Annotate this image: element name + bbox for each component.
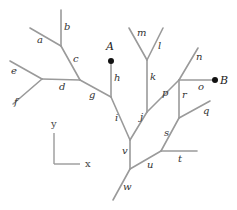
edge-label-o: o [198,81,204,92]
edge-label-p: p [162,87,169,98]
edge-label-r: r [182,89,188,100]
y-axis-label: y [50,118,57,129]
edge-label-w: w [123,181,132,192]
edge-g [80,80,111,97]
edge-label-t: t [178,153,183,164]
edge-a [30,28,61,46]
point-B-dot [212,77,218,83]
edge-label-d: d [59,81,65,92]
edge-label-k: k [150,71,156,82]
edge-label-u: u [147,159,153,170]
edge-label-n: n [196,51,202,62]
edge-label-v: v [122,145,128,156]
edge-u [130,151,161,169]
edge-label-j: j [138,111,143,122]
edge-label-i: i [115,112,118,123]
edge-label-g: g [89,89,95,100]
edge-label-s: s [164,127,169,138]
edge-label-q: q [203,105,209,116]
edge-label-l: l [158,40,161,51]
point-label-B: B [219,74,228,87]
coordinate-axes: y x [50,118,91,169]
edge-label-b: b [64,21,70,32]
edge-label-a: a [37,34,43,45]
tree-diagram: abcdefghijklmnoprqstuvw AB y x [0,0,237,210]
point-label-A: A [105,40,114,53]
edge-label-f: f [13,96,20,107]
point-A-dot [108,58,114,64]
edge-label-c: c [73,53,79,64]
edge-i [111,97,130,140]
edge-d [42,79,80,80]
edge-label-m: m [137,27,146,38]
x-axis-label: x [85,158,91,169]
edge-j [130,112,147,140]
edge-label-h: h [114,72,120,83]
edge-label-e: e [11,65,17,76]
